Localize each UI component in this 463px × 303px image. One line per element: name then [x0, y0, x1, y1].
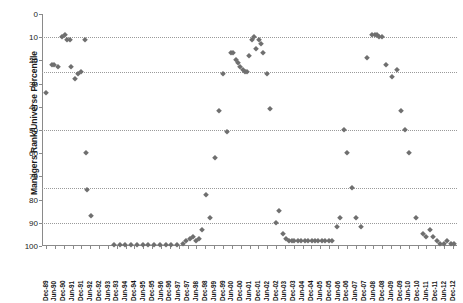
x-tick-label-dec-07: Dec-07: [360, 281, 367, 301]
x-tick-label-jun-94: Jun-94: [121, 281, 128, 301]
y-tick-mark: [39, 246, 42, 247]
x-tick-mark: [338, 246, 339, 249]
x-tick-mark: [64, 246, 65, 249]
x-tick-label-dec-11: Dec-11: [431, 281, 438, 301]
data-point: [383, 62, 389, 68]
x-tick-label-jun-06: Jun-06: [334, 281, 341, 301]
x-tick-label-dec-94: Dec-94: [130, 281, 137, 301]
data-point: [423, 234, 429, 240]
x-tick-label-jun-97: Jun-97: [174, 281, 181, 301]
x-tick-mark: [223, 246, 224, 249]
y-tick-mark: [39, 200, 42, 201]
y-tick-label-60: 60: [4, 149, 38, 158]
x-tick-label-jun-98: Jun-98: [192, 281, 199, 301]
plot-area: 0102030405060708090100: [42, 14, 457, 246]
x-tick-label-jun-09: Jun-09: [387, 281, 394, 301]
y-tick-label-0: 0: [4, 10, 38, 19]
data-point: [398, 108, 404, 114]
data-point: [223, 129, 229, 135]
y-tick-label-80: 80: [4, 195, 38, 204]
gridline-90: [42, 223, 457, 224]
y-tick-label-20: 20: [4, 56, 38, 65]
x-tick-mark: [46, 246, 47, 249]
data-point: [258, 41, 264, 47]
y-tick-mark: [39, 60, 42, 61]
x-tick-mark: [303, 246, 304, 249]
data-point: [216, 108, 222, 114]
x-tick-label-jun-91: Jun-91: [68, 281, 75, 301]
x-tick-label-jun-01: Jun-01: [245, 281, 252, 301]
x-tick-mark: [320, 246, 321, 249]
data-point: [353, 215, 359, 221]
x-tick-mark: [232, 246, 233, 249]
x-tick-mark: [391, 246, 392, 249]
x-tick-mark: [329, 246, 330, 249]
y-tick-label-40: 40: [4, 102, 38, 111]
data-point: [84, 187, 90, 193]
x-tick-label-jun-00: Jun-00: [227, 281, 234, 301]
y-tick-mark: [39, 84, 42, 85]
data-point: [364, 55, 370, 61]
data-point: [273, 220, 279, 226]
x-tick-mark: [365, 246, 366, 249]
x-tick-mark: [241, 246, 242, 249]
x-tick-mark: [179, 246, 180, 249]
x-tick-mark: [108, 246, 109, 249]
x-tick-label-dec-89: Dec-89: [42, 281, 49, 301]
data-point: [389, 74, 395, 80]
data-point: [427, 227, 433, 233]
x-tick-label-dec-00: Dec-00: [236, 281, 243, 301]
x-tick-label-jun-08: Jun-08: [369, 281, 376, 301]
x-tick-label-jun-95: Jun-95: [139, 281, 146, 301]
y-tick-label-70: 70: [4, 172, 38, 181]
x-tick-label-dec-92: Dec-92: [95, 281, 102, 301]
data-point: [341, 127, 347, 133]
x-tick-mark: [99, 246, 100, 249]
chart-container: Managers Rank/Universe Percentile 010203…: [0, 0, 463, 303]
x-tick-mark: [214, 246, 215, 249]
data-point: [207, 215, 213, 221]
x-tick-label-jun-11: Jun-11: [422, 281, 429, 301]
data-point: [246, 53, 252, 59]
y-tick-label-100: 100: [4, 242, 38, 251]
x-tick-label-dec-12: Dec-12: [449, 281, 456, 301]
y-tick-label-50: 50: [4, 126, 38, 135]
x-tick-mark: [205, 246, 206, 249]
x-tick-mark: [418, 246, 419, 249]
data-point: [260, 50, 266, 56]
x-tick-label-jun-92: Jun-92: [86, 281, 93, 301]
data-point: [401, 127, 407, 133]
data-point: [276, 208, 282, 214]
x-tick-label-jun-04: Jun-04: [298, 281, 305, 301]
x-tick-mark: [382, 246, 383, 249]
x-tick-label-jun-93: Jun-93: [104, 281, 111, 301]
x-tick-mark: [55, 246, 56, 249]
x-tick-label-jun-05: Jun-05: [316, 281, 323, 301]
data-point: [329, 238, 335, 244]
gridline-50: [42, 130, 457, 131]
x-tick-mark: [435, 246, 436, 249]
x-tick-label-dec-10: Dec-10: [413, 281, 420, 301]
x-tick-mark: [250, 246, 251, 249]
x-tick-mark: [311, 246, 312, 249]
y-tick-mark: [39, 153, 42, 154]
x-tick-label-dec-96: Dec-96: [165, 281, 172, 301]
x-tick-label-jun-12: Jun-12: [440, 281, 447, 301]
x-tick-mark: [373, 246, 374, 249]
data-point: [68, 64, 74, 70]
x-tick-label-dec-05: Dec-05: [325, 281, 332, 301]
x-tick-mark: [285, 246, 286, 249]
y-tick-mark: [39, 107, 42, 108]
data-point: [199, 227, 205, 233]
x-tick-label-dec-02: Dec-02: [272, 281, 279, 301]
x-tick-mark: [90, 246, 91, 249]
x-tick-label-dec-91: Dec-91: [77, 281, 84, 301]
x-tick-label-jun-03: Jun-03: [280, 281, 287, 301]
data-point: [212, 155, 218, 161]
data-point: [83, 150, 89, 156]
x-tick-label-dec-95: Dec-95: [148, 281, 155, 301]
data-point: [267, 106, 273, 112]
y-tick-label-90: 90: [4, 218, 38, 227]
data-point: [88, 213, 94, 219]
x-tick-mark: [294, 246, 295, 249]
